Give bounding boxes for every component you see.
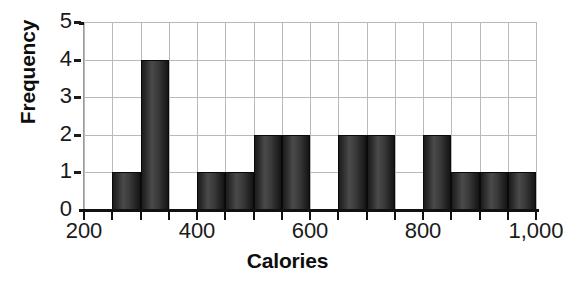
y-axis-tick-mark xyxy=(74,171,81,174)
histogram-bar xyxy=(338,135,366,210)
y-axis-tick-label: 1 xyxy=(50,160,72,182)
x-axis-tick-mark xyxy=(366,211,368,220)
histogram-bar xyxy=(282,135,310,210)
y-axis-tick-label: 3 xyxy=(50,85,72,107)
y-axis-tick-label: 5 xyxy=(50,10,72,32)
y-axis-tick-mark xyxy=(74,134,81,137)
bar-series xyxy=(84,22,536,210)
gridline-vertical xyxy=(536,22,537,210)
x-axis-tick-label: 600 xyxy=(270,218,350,244)
x-axis-tick-mark xyxy=(253,211,255,220)
y-axis-tick-mark xyxy=(74,96,81,99)
x-axis-tick-label: 400 xyxy=(157,218,237,244)
histogram-bar xyxy=(480,172,508,210)
histogram-chart: Frequency 012345 2004006008001,000 Calor… xyxy=(0,0,575,287)
histogram-bar xyxy=(508,172,536,210)
histogram-bar xyxy=(225,172,253,210)
x-axis-tick-mark xyxy=(479,211,481,220)
histogram-bar xyxy=(367,135,395,210)
histogram-bar xyxy=(423,135,451,210)
histogram-bar xyxy=(141,60,169,210)
histogram-bar xyxy=(112,172,140,210)
y-axis-tick-label: 4 xyxy=(50,48,72,70)
histogram-bar xyxy=(197,172,225,210)
y-axis-tick-label: 0 xyxy=(50,198,72,220)
plot-area xyxy=(84,22,536,210)
y-axis-title: Frequency xyxy=(16,0,40,162)
x-axis-tick-label: 1,000 xyxy=(496,218,575,244)
x-axis-title: Calories xyxy=(0,249,575,273)
x-axis-tick-label: 200 xyxy=(44,218,124,244)
y-axis-tick-mark xyxy=(74,59,81,62)
y-axis-tick-mark xyxy=(74,21,81,24)
histogram-bar xyxy=(451,172,479,210)
x-axis-tick-label: 800 xyxy=(383,218,463,244)
histogram-bar xyxy=(254,135,282,210)
x-axis-tick-mark xyxy=(140,211,142,220)
y-axis-tick-label: 2 xyxy=(50,123,72,145)
